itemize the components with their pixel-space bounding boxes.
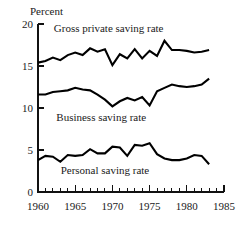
x-tick-label-1975: 1975 [139, 200, 162, 212]
x-tick-label-1960: 1960 [27, 200, 50, 212]
series-label-business-saving-rate: Business saving rate [56, 111, 146, 123]
y-tick-label-5: 5 [28, 144, 34, 156]
y-tick-label-20: 20 [22, 18, 34, 30]
y-axis-title: Percent [30, 5, 63, 17]
x-tick-label-1965: 1965 [64, 200, 87, 212]
series-line-gross-private-saving-rate [38, 41, 209, 65]
y-tick-label-15: 15 [22, 60, 34, 72]
y-tick-label-0: 0 [28, 186, 34, 198]
series-label-gross-private-saving-rate: Gross private saving rate [54, 22, 164, 34]
series-line-business-saving-rate [38, 79, 209, 107]
x-tick-label-1980: 1980 [176, 200, 199, 212]
x-tick-label-1985: 1985 [213, 200, 236, 212]
series-label-personal-saving-rate: Personal saving rate [61, 164, 150, 176]
saving-rate-line-chart: Percent05101520196019651970197519801985G… [0, 0, 246, 225]
series-line-personal-saving-rate [38, 143, 209, 164]
chart-canvas: Percent05101520196019651970197519801985G… [0, 0, 246, 225]
x-tick-label-1970: 1970 [101, 200, 124, 212]
y-tick-label-10: 10 [22, 102, 34, 114]
